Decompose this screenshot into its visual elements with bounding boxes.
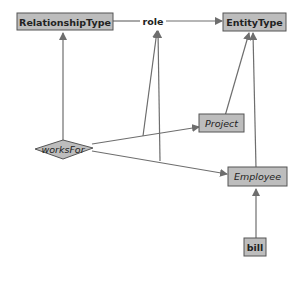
node-label: Project bbox=[205, 118, 239, 129]
node-label: bill bbox=[247, 242, 264, 253]
node-label: Employee bbox=[234, 171, 281, 182]
node-label: RelationshipType bbox=[19, 17, 111, 28]
edge-worksfor-project bbox=[92, 127, 199, 144]
node-employee[interactable]: Employee bbox=[228, 167, 287, 186]
node-project[interactable]: Project bbox=[199, 114, 244, 132]
node-label: role bbox=[143, 16, 164, 27]
node-label: worksFor bbox=[41, 144, 85, 155]
edge-project-entitytype bbox=[225, 33, 249, 116]
node-label: EntityType bbox=[226, 17, 283, 28]
edge-employee-link-role bbox=[158, 31, 160, 161]
diagram-canvas: RelationshipType role EntityType Project… bbox=[0, 0, 298, 285]
node-entitytype[interactable]: EntityType bbox=[223, 13, 286, 31]
node-relationshiptype[interactable]: RelationshipType bbox=[17, 13, 113, 30]
edge-project-link-role bbox=[143, 31, 157, 136]
node-worksfor[interactable]: worksFor bbox=[35, 140, 93, 159]
node-bill[interactable]: bill bbox=[244, 238, 266, 256]
edge-employee-entitytype bbox=[253, 33, 256, 168]
node-role[interactable]: role bbox=[143, 16, 164, 27]
